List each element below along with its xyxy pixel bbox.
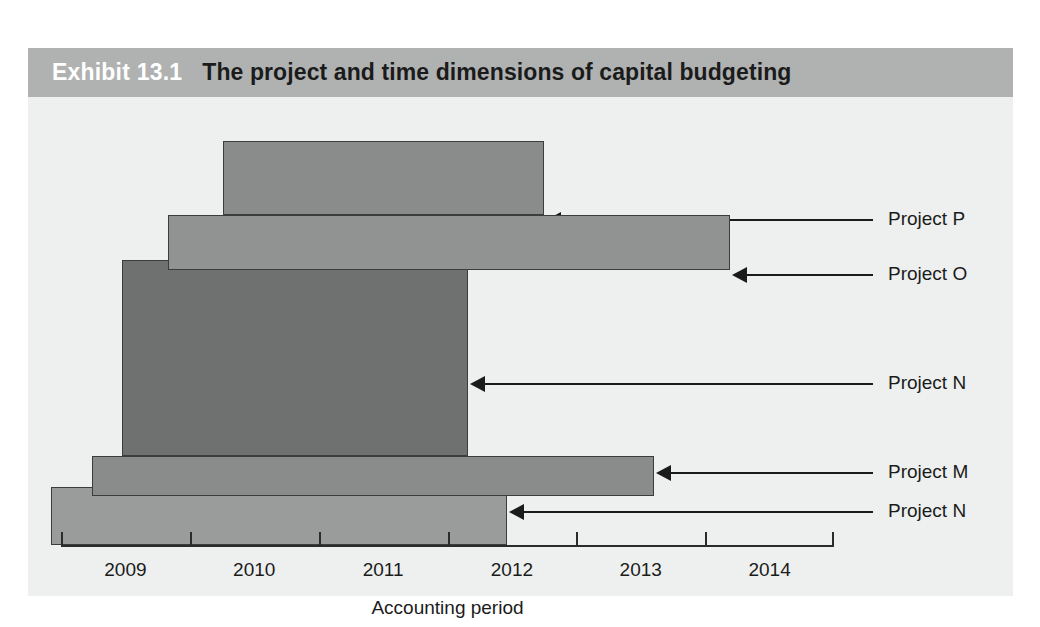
axis-cap-right bbox=[832, 532, 834, 545]
chart-plot-area: 200920102011201220132014Accounting perio… bbox=[28, 97, 1013, 596]
chart-bar bbox=[223, 141, 544, 215]
callout-leader-line bbox=[746, 274, 873, 276]
exhibit-title: The project and time dimensions of capit… bbox=[202, 59, 791, 86]
x-axis-line bbox=[61, 545, 834, 547]
callout-leader-line bbox=[670, 472, 873, 474]
chart-bar bbox=[122, 260, 469, 456]
exhibit-figure: Exhibit 13.1 The project and time dimens… bbox=[28, 48, 1013, 596]
callout-leader-line bbox=[523, 511, 873, 513]
x-axis-tick-label: 2014 bbox=[725, 559, 815, 581]
callout-label: Project O bbox=[888, 263, 967, 285]
callout-label: Project M bbox=[888, 461, 968, 483]
callout-arrow-head bbox=[509, 504, 524, 520]
callout-label: Project N bbox=[888, 500, 966, 522]
exhibit-header: Exhibit 13.1 The project and time dimens… bbox=[28, 48, 1013, 97]
x-axis-tick bbox=[190, 532, 192, 545]
callout-leader-line bbox=[484, 383, 873, 385]
callout-label: Project P bbox=[888, 208, 965, 230]
callout-arrow-head bbox=[656, 465, 671, 481]
axis-cap-left bbox=[61, 532, 63, 545]
x-axis-tick-label: 2010 bbox=[209, 559, 299, 581]
x-axis-tick bbox=[319, 532, 321, 545]
exhibit-number: Exhibit 13.1 bbox=[52, 59, 182, 86]
x-axis-title: Accounting period bbox=[61, 597, 834, 619]
x-axis-tick-label: 2012 bbox=[467, 559, 557, 581]
x-axis-tick bbox=[448, 532, 450, 545]
x-axis-tick-label: 2013 bbox=[596, 559, 686, 581]
chart-bar bbox=[92, 456, 654, 496]
callout-label: Project N bbox=[888, 372, 966, 394]
callout-arrow-head bbox=[470, 376, 485, 392]
figure-page: Exhibit 13.1 The project and time dimens… bbox=[0, 0, 1040, 627]
x-axis-tick bbox=[705, 532, 707, 545]
callout-arrow-head bbox=[732, 267, 747, 283]
x-axis-tick bbox=[576, 532, 578, 545]
x-axis-tick-label: 2011 bbox=[338, 559, 428, 581]
chart-bar bbox=[168, 215, 730, 270]
x-axis-tick-label: 2009 bbox=[80, 559, 170, 581]
